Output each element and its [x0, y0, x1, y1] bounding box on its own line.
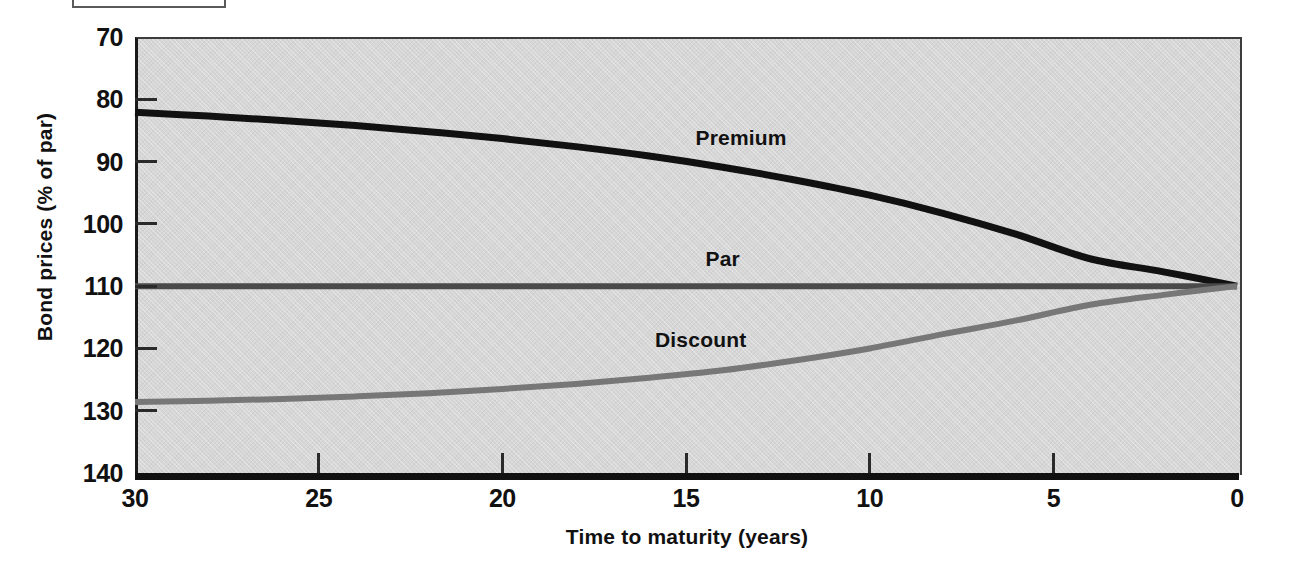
- x-axis-title: Time to maturity (years): [135, 525, 1239, 549]
- x-tick-label: 0: [1230, 484, 1243, 513]
- y-tick-mark: [135, 98, 157, 101]
- x-tick-mark: [317, 453, 320, 473]
- x-tick-label: 15: [673, 484, 700, 513]
- series-label-premium: Premium: [695, 126, 786, 150]
- series-line-premium: [135, 112, 1237, 286]
- bond-price-figure: 140130120110100908070302520151050Premium…: [0, 0, 1289, 573]
- y-tick-label: 120: [55, 334, 123, 363]
- y-tick-label: 100: [55, 209, 123, 238]
- x-tick-label: 10: [856, 484, 883, 513]
- x-tick-label: 25: [305, 484, 332, 513]
- y-tick-mark: [135, 409, 157, 412]
- y-tick-mark: [135, 347, 157, 350]
- x-tick-label: 5: [1047, 484, 1060, 513]
- x-tick-label: 30: [122, 484, 149, 513]
- x-tick-mark: [501, 453, 504, 473]
- y-tick-label: 110: [55, 272, 123, 301]
- series-curves: [0, 0, 1289, 573]
- series-label-par: Par: [705, 247, 739, 271]
- y-tick-label: 130: [55, 396, 123, 425]
- x-tick-mark: [685, 453, 688, 473]
- y-tick-mark: [135, 285, 157, 288]
- x-tick-mark: [868, 453, 871, 473]
- y-tick-label: 80: [55, 85, 123, 114]
- y-tick-mark: [135, 222, 157, 225]
- y-tick-label: 90: [55, 147, 123, 176]
- series-label-discount: Discount: [655, 328, 746, 352]
- y-tick-label: 70: [55, 23, 123, 52]
- y-axis-title: Bond prices (% of par): [33, 27, 57, 427]
- y-tick-label: 140: [55, 459, 123, 488]
- y-tick-mark: [135, 160, 157, 163]
- x-tick-label: 20: [489, 484, 516, 513]
- x-tick-mark: [1052, 453, 1055, 473]
